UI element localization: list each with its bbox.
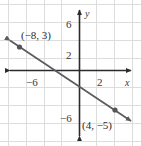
y-tick-label-neg6: −6	[60, 113, 72, 124]
y-tick-label-2: 2	[66, 50, 72, 61]
coordinate-plane-figure: 6 2 −6 −6 2 y x (−8, 3) (4, −5)	[0, 0, 141, 146]
point-label-neg8-3: (−8, 3)	[21, 30, 51, 41]
x-tick-label-2: 2	[97, 77, 103, 88]
x-tick-label-neg6: −6	[26, 77, 38, 88]
point-marker-1	[17, 44, 22, 49]
point-label-4-neg5: (4, −5)	[82, 120, 112, 131]
y-tick-label-6: 6	[66, 19, 72, 30]
y-axis-label: y	[85, 9, 89, 19]
x-axis-label: x	[125, 78, 129, 88]
point-marker-2	[112, 107, 117, 112]
